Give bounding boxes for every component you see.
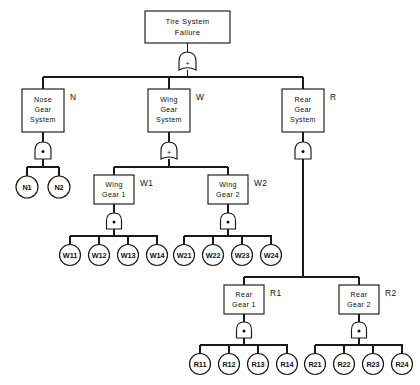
leaf-r11[interactable]: R11	[190, 354, 211, 375]
leaf-r24[interactable]: R24	[392, 354, 413, 375]
leaf-r14[interactable]: R14	[277, 354, 298, 375]
and-gate-dot-rear	[302, 150, 305, 153]
leaf-label-r14: R14	[280, 360, 294, 369]
and-gate-nose[interactable]	[35, 142, 51, 159]
wing-gear-1-box[interactable]	[94, 175, 134, 204]
leaf-w23[interactable]: W23	[232, 245, 253, 266]
leaf-label-w24: W24	[264, 251, 280, 260]
fault-tree-canvas: Tire System Failure + Nose Gear System N…	[0, 0, 420, 385]
leaf-label-r23: R23	[366, 360, 379, 369]
node-wing-gear-2[interactable]: Wing Gear 2 W2	[208, 175, 267, 204]
nose-gear-label-line1: Nose	[34, 96, 52, 104]
leaf-r13[interactable]: R13	[248, 354, 269, 375]
rear-gear-1-label-line1: Rear	[236, 291, 253, 299]
rear-gear-label-line1: Rear	[295, 96, 312, 104]
rear-gear-2-label-line1: Rear	[351, 291, 368, 299]
top-event-label-line1: Tire System	[165, 17, 209, 26]
wing-gear-2-label-line1: Wing	[219, 181, 237, 189]
leaf-label-r22: R22	[337, 360, 350, 369]
fault-tree-diagram: Tire System Failure + Nose Gear System N…	[0, 0, 420, 385]
leaf-w21[interactable]: W21	[174, 245, 195, 266]
leaf-label-r13: R13	[251, 360, 264, 369]
leaf-label-w14: W14	[150, 251, 166, 260]
leaf-r22[interactable]: R22	[334, 354, 355, 375]
top-event-label-line2: Failure	[175, 28, 201, 37]
wing-gear-label-line1: Wing	[160, 96, 178, 104]
node-nose-gear-system[interactable]: Nose Gear System N	[22, 89, 76, 132]
leaf-label-r21: R21	[308, 360, 321, 369]
node-rear-gear-2[interactable]: Rear Gear 2 R2	[339, 285, 397, 314]
and-gate-dot-nose	[42, 150, 45, 153]
and-gate-dot-wg1	[113, 221, 116, 224]
leaf-n2[interactable]: N2	[48, 176, 70, 198]
wing-gear-tag: W	[196, 92, 204, 102]
and-gate-dot-rg1	[243, 330, 246, 333]
and-gate-rear-gear-2[interactable]	[352, 322, 367, 338]
wing-gear-1-tag: W1	[140, 178, 153, 188]
leaf-label-w21: W21	[177, 251, 192, 260]
leaf-w22[interactable]: W22	[203, 245, 224, 266]
rear-gear-2-label-line2: Gear 2	[347, 301, 371, 309]
and-gate-dot-wg2	[227, 221, 230, 224]
wing-gear-2-box[interactable]	[208, 175, 248, 204]
rear-gear-2-tag: R2	[385, 288, 397, 298]
leaf-label-w11: W11	[63, 251, 77, 260]
leaf-w24[interactable]: W24	[261, 245, 282, 266]
wing-gear-2-label-line2: Gear 2	[216, 191, 240, 199]
rear-gear-1-tag: R1	[270, 288, 282, 298]
leaf-n1[interactable]: N1	[16, 176, 38, 198]
wing-gear-2-tag: W2	[254, 178, 267, 188]
or-gate-top[interactable]: +	[179, 52, 196, 70]
nose-gear-label-line2: Gear	[34, 106, 51, 114]
leaf-w13[interactable]: W13	[118, 245, 139, 266]
nose-gear-tag: N	[70, 92, 76, 102]
nose-gear-label-line3: System	[30, 116, 56, 124]
wing-gear-1-label-line1: Wing	[105, 181, 123, 189]
or-gate-symbol-top: +	[185, 60, 189, 67]
rear-gear-label-line3: System	[290, 116, 316, 124]
wing-gear-1-label-line2: Gear 1	[102, 191, 126, 199]
leaf-label-w12: W12	[92, 251, 107, 260]
or-gate-symbol-wing: +	[167, 149, 171, 156]
node-wing-gear-system[interactable]: Wing Gear System W	[148, 89, 204, 132]
rear-gear-label-line2: Gear	[294, 106, 311, 114]
leaf-r23[interactable]: R23	[363, 354, 384, 375]
leaf-r12[interactable]: R12	[219, 354, 240, 375]
leaf-label-w13: W13	[121, 251, 136, 260]
and-gate-rear[interactable]	[295, 142, 311, 159]
wing-gear-label-line2: Gear	[160, 106, 177, 114]
wing-gear-label-line3: System	[156, 116, 182, 124]
leaf-w12[interactable]: W12	[89, 245, 110, 266]
node-tire-system-failure[interactable]: Tire System Failure	[145, 11, 230, 43]
node-rear-gear-system[interactable]: Rear Gear System R	[282, 89, 336, 132]
leaf-w14[interactable]: W14	[147, 245, 168, 266]
leaf-label-w23: W23	[235, 251, 250, 260]
or-gate-wing[interactable]: +	[161, 142, 177, 159]
and-gate-wing-gear-1[interactable]	[107, 213, 122, 229]
leaf-r21[interactable]: R21	[305, 354, 326, 375]
and-gate-wing-gear-2[interactable]	[221, 213, 236, 229]
and-gate-dot-rg2	[358, 330, 361, 333]
leaf-label-w22: W22	[206, 251, 221, 260]
node-rear-gear-1[interactable]: Rear Gear 1 R1	[224, 285, 282, 314]
leaf-label-n1: N1	[22, 183, 31, 192]
rear-gear-1-box[interactable]	[224, 285, 264, 314]
leaf-label-r12: R12	[222, 360, 235, 369]
and-gate-rear-gear-1[interactable]	[237, 322, 252, 338]
leaf-label-r24: R24	[395, 360, 409, 369]
rear-gear-1-label-line2: Gear 1	[232, 301, 256, 309]
node-wing-gear-1[interactable]: Wing Gear 1 W1	[94, 175, 153, 204]
leaf-label-n2: N2	[54, 183, 63, 192]
rear-gear-2-box[interactable]	[339, 285, 379, 314]
leaf-label-r11: R11	[194, 360, 207, 369]
leaf-w11[interactable]: W11	[60, 245, 81, 266]
rear-gear-tag: R	[330, 92, 336, 102]
